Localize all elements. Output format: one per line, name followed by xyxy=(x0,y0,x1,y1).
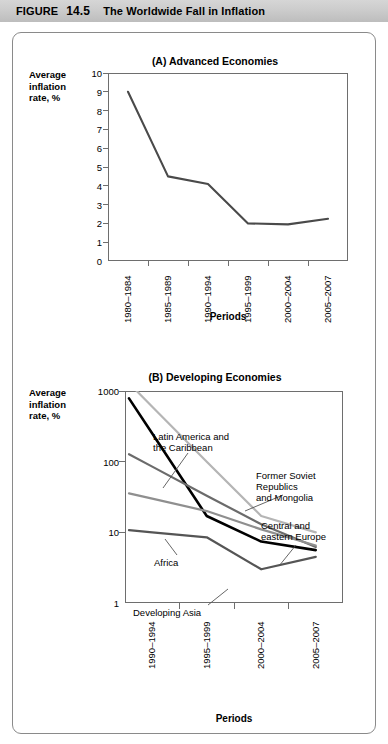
chart-b-x-tick-label: 1990–1994 xyxy=(146,613,157,669)
chart-a-x-tick-label: 1995–1999 xyxy=(242,271,253,323)
series-label-4: Africa xyxy=(154,557,178,568)
chart-a-y-tick-label: 2 xyxy=(72,218,102,229)
chart-b-y-tick-mark xyxy=(119,391,125,392)
chart-a-y-tick-label: 0 xyxy=(72,256,102,267)
series-label-5: Developing Asia xyxy=(133,607,201,618)
chart-a-x-tick-label: 2005–2007 xyxy=(322,271,333,323)
chart-a-y-tick-mark xyxy=(103,242,108,243)
chart-b-x-tick-mark xyxy=(288,603,289,609)
figure-number: 14.5 xyxy=(66,4,90,18)
chart-a-x-tick-mark xyxy=(228,261,229,266)
figure-header-bar: FIGURE 14.5 The Worldwide Fall in Inflat… xyxy=(0,0,388,22)
chart-a-y-tick-label: 4 xyxy=(72,180,102,191)
chart-b-y-tick-label: 100 xyxy=(81,456,119,467)
chart-a-x-tick-mark xyxy=(148,261,149,266)
chart-b-y-tick-label: 10 xyxy=(81,527,119,538)
chart-a-y-tick-label: 1 xyxy=(72,237,102,248)
chart-developing-economies: (B) Developing Economies Averageinflatio… xyxy=(13,333,375,733)
chart-a-y-tick-mark xyxy=(103,148,108,149)
chart-a-y-tick-mark xyxy=(103,204,108,205)
chart-b-x-tick-label: 2005–2007 xyxy=(310,613,321,669)
chart-a-x-tick-mark xyxy=(308,261,309,266)
chart-a-x-tick-label: 1980–1984 xyxy=(122,271,133,323)
chart-b-y-tick-label: 1000 xyxy=(81,386,119,397)
chart-a-y-tick-mark xyxy=(103,185,108,186)
chart-b-x-tick-label: 1995–1999 xyxy=(201,613,212,669)
chart-b-x-tick-mark xyxy=(234,603,235,609)
chart-a-x-tick-label: 2000–2004 xyxy=(282,271,293,323)
chart-a-y-tick-label: 3 xyxy=(72,199,102,210)
chart-a-y-tick-mark xyxy=(103,167,108,168)
chart-a-y-tick-label: 5 xyxy=(72,162,102,173)
chart-a-x-tick-mark xyxy=(188,261,189,266)
figure-label: FIGURE xyxy=(16,5,58,17)
figure-page: FIGURE 14.5 The Worldwide Fall in Inflat… xyxy=(0,0,388,744)
series-label-3: Central and eastern Europe xyxy=(261,520,326,542)
series-label-1: Latin America and the Caribbean xyxy=(153,431,229,453)
figure-panel: (A) Advanced Economies Averageinflationr… xyxy=(12,32,376,734)
chart-a-x-tick-mark xyxy=(268,261,269,266)
chart-a-y-tick-label: 6 xyxy=(72,143,102,154)
chart-a-y-tick-label: 10 xyxy=(72,68,102,79)
chart-b-y-tick-mark xyxy=(119,461,125,462)
chart-advanced-economies: (A) Advanced Economies Averageinflationr… xyxy=(13,33,375,333)
chart-a-y-tick-mark xyxy=(103,223,108,224)
chart-a-x-tick-label: 1990–1994 xyxy=(202,271,213,323)
chart-b-x-tick-label: 2000–2004 xyxy=(255,613,266,669)
chart-b-y-tick-mark xyxy=(119,532,125,533)
chart-a-x-axis-title: Periods xyxy=(108,311,348,322)
chart-a-y-tick-label: 8 xyxy=(72,105,102,116)
series-label-2: Former Soviet Republics and Mongolia xyxy=(256,470,316,503)
chart-b-x-axis-title: Periods xyxy=(125,713,343,724)
chart-a-y-tick-mark xyxy=(103,73,108,74)
chart-a-x-tick-label: 1985–1989 xyxy=(162,271,173,323)
figure-header-text: FIGURE 14.5 The Worldwide Fall in Inflat… xyxy=(16,4,265,18)
chart-a-y-tick-mark xyxy=(103,110,108,111)
chart-a-y-tick-label: 9 xyxy=(72,86,102,97)
chart-a-y-tick-mark xyxy=(103,129,108,130)
figure-title: The Worldwide Fall in Inflation xyxy=(103,5,265,17)
chart-a-canvas xyxy=(13,33,375,333)
chart-a-y-tick-label: 7 xyxy=(72,124,102,135)
chart-a-y-tick-mark xyxy=(103,91,108,92)
chart-b-y-tick-label: 1 xyxy=(81,598,119,609)
